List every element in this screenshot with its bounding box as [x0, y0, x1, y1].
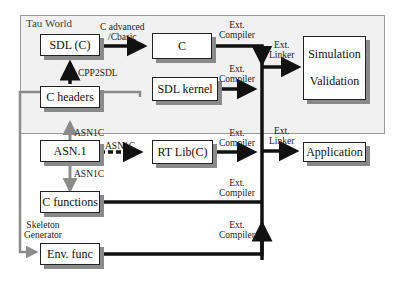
node-c-functions: C functions — [40, 191, 100, 213]
label-cpp2sdl: CPP2SDL — [78, 68, 118, 78]
node-env-func: Env. func — [40, 243, 100, 265]
val-line: Validation — [310, 74, 359, 89]
label-line: Ext. — [219, 128, 255, 138]
label-line: Generator — [24, 230, 62, 240]
label-line: Ext. — [269, 40, 294, 50]
label-ext-compiler-envfunc: Ext. Compiler — [219, 220, 255, 240]
node-sdl-c: SDL (C) — [40, 34, 100, 56]
label-line: C advanced — [100, 22, 145, 32]
node-c-headers: C headers — [40, 86, 100, 108]
label-line: Compiler — [219, 138, 255, 148]
label-c-advanced: C advanced /Cbasic — [100, 22, 145, 42]
label-ext-compiler-c: Ext. Compiler — [219, 20, 255, 40]
label-asn1c-right: ASN1C — [105, 141, 135, 151]
node-rt-lib: RT Lib(C) — [152, 140, 213, 164]
label-line: Compiler — [219, 74, 255, 84]
label-line: Linker — [269, 50, 294, 60]
label-line: Ext. — [219, 64, 255, 74]
label-line: Compiler — [219, 188, 255, 198]
label-line: Ext. — [269, 126, 294, 136]
label-line: Ext. — [219, 220, 255, 230]
c-compile-arrow — [213, 46, 262, 63]
node-asn1: ASN.1 — [40, 140, 100, 162]
label-ext-compiler-kernel: Ext. Compiler — [219, 64, 255, 84]
label-ext-linker-sim: Ext. Linker — [269, 40, 294, 60]
label-line: Ext. — [219, 178, 255, 188]
label-asn1c-up: ASN1C — [74, 128, 104, 138]
label-ext-compiler-rtlib: Ext. Compiler — [219, 128, 255, 148]
label-line: Linker — [269, 136, 294, 146]
node-application: Application — [303, 142, 366, 162]
label-ext-linker-app: Ext. Linker — [269, 126, 294, 146]
sim-line: Simulation — [308, 47, 361, 62]
label-line: Ext. — [219, 20, 255, 30]
label-line: /Cbasic — [100, 32, 145, 42]
node-c: C — [152, 33, 212, 59]
label-ext-compiler-cfunc: Ext. Compiler — [219, 178, 255, 198]
node-sdl-kernel: SDL kernel — [152, 77, 218, 101]
label-line: Compiler — [219, 230, 255, 240]
label-skeleton-generator: Skeleton Generator — [24, 220, 62, 240]
label-line: Compiler — [219, 30, 255, 40]
label-asn1c-down: ASN1C — [74, 169, 104, 179]
node-simulation-validation: Simulation Validation — [303, 36, 366, 100]
label-line: Skeleton — [24, 220, 62, 230]
